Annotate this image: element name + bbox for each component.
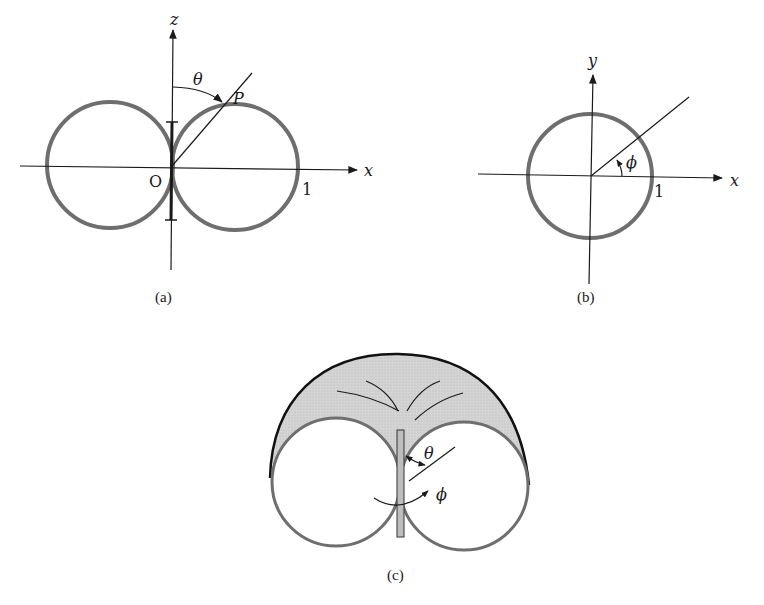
unit-label: 1 xyxy=(654,182,664,201)
y-axis xyxy=(589,75,593,284)
phi-label: ϕ xyxy=(626,153,637,172)
figure-c: θ ϕ (c) xyxy=(270,354,529,584)
antenna-rod xyxy=(397,430,404,537)
caption-b: (b) xyxy=(577,289,595,306)
theta-label: θ xyxy=(193,70,203,89)
point-p-label: P xyxy=(232,89,244,108)
figure-b: y ϕ 1 x (b) xyxy=(478,51,739,306)
right-lobe xyxy=(400,422,528,550)
caption-a: (a) xyxy=(155,289,172,306)
radial-line xyxy=(591,97,689,176)
x-axis-label: x xyxy=(730,171,739,190)
x-axis xyxy=(20,166,357,170)
dipole-bar xyxy=(171,122,172,220)
figure-a: z θ P O 1 x (a) xyxy=(20,10,373,306)
x-axis-label: x xyxy=(364,161,373,180)
phi-arc xyxy=(617,160,622,176)
caption-c: (c) xyxy=(387,567,404,584)
left-lobe xyxy=(47,102,173,228)
unit-label: 1 xyxy=(302,180,312,199)
radial-line xyxy=(172,73,252,166)
x-axis xyxy=(478,174,722,178)
theta-arc xyxy=(173,87,222,102)
z-axis-label: z xyxy=(169,10,179,29)
left-lobe xyxy=(272,418,400,546)
y-axis-label: y xyxy=(587,51,598,70)
phi-label: ϕ xyxy=(436,485,447,504)
right-lobe xyxy=(172,104,298,230)
diagram-canvas: z θ P O 1 x (a) y ϕ 1 x (b) xyxy=(0,0,764,605)
theta-label: θ xyxy=(424,444,434,463)
origin-label: O xyxy=(149,172,162,191)
